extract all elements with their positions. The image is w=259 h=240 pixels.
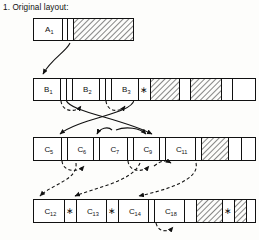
memory-block-free — [196, 138, 202, 161]
memory-block-free — [242, 138, 256, 161]
memory-block-hatched — [197, 200, 223, 223]
memory-block-free — [229, 138, 242, 161]
asterisk-marker: ∗ — [224, 206, 232, 216]
memory-rows-layer — [34, 19, 256, 223]
block-label-subscript: 18 — [171, 211, 177, 217]
block-label: B — [83, 85, 88, 94]
dashed-arrow-c5-to-d12 — [40, 163, 76, 196]
block-label-subscript: 7 — [116, 149, 119, 155]
block-label-subscript: 3 — [128, 89, 131, 95]
memory-block-free — [100, 79, 106, 101]
block-label-subscript: 2 — [89, 89, 92, 95]
memory-block-free — [106, 79, 112, 101]
memory-block-free — [222, 79, 233, 101]
memory-block-hatched — [202, 138, 229, 161]
memory-block-free — [62, 138, 68, 161]
memory-block-free — [68, 19, 74, 41]
block-label-subscript: 11 — [182, 149, 188, 155]
block-label: B — [122, 85, 127, 94]
memory-block-hatched — [74, 19, 134, 41]
dashed-arrow-c9-to-c11 — [154, 161, 171, 166]
block-label-subscript: 14 — [135, 211, 141, 217]
memory-block-free — [67, 79, 73, 101]
block-label-subscript: 5 — [50, 149, 53, 155]
dashed-arrow-b2-arc — [106, 101, 125, 110]
block-label: B — [44, 85, 49, 94]
dashed-arrow-c7-to-d13 — [75, 163, 140, 196]
memory-block-free — [63, 19, 68, 41]
solid-arrow-c-in-left — [97, 128, 112, 134]
memory-block-free — [149, 200, 155, 223]
memory-block-free — [94, 138, 100, 161]
memory-block-free — [247, 200, 256, 223]
cell-labels-layer: A1B1B2B3∗C5C6C7C9C11C12∗C13∗C14C18∗ — [44, 25, 232, 217]
block-label-subscript: 12 — [50, 211, 56, 217]
block-label-subscript: 1 — [51, 29, 54, 35]
block-label-subscript: 1 — [50, 89, 53, 95]
solid-arrow-a1-to-b1 — [43, 43, 70, 74]
memory-block-free — [160, 138, 166, 161]
solid-arrow-b-cross-left — [66, 100, 152, 134]
asterisk-marker: ∗ — [140, 85, 148, 95]
memory-block-free — [180, 79, 191, 101]
asterisk-marker: ∗ — [66, 206, 74, 216]
asterisk-marker: ∗ — [108, 206, 116, 216]
memory-block-free — [61, 79, 67, 101]
memory-block-hatched — [191, 79, 222, 101]
dashed-arrow-d18-hook — [156, 223, 173, 231]
memory-block-hatched — [235, 200, 247, 223]
diagram-canvas: 1. Original layout: A1B1B2B3∗C5C6C7C9C11… — [0, 0, 259, 240]
dashed-arrow-c5-arc — [62, 161, 84, 170]
block-label-subscript: 13 — [93, 211, 99, 217]
block-label-subscript: 9 — [149, 149, 152, 155]
memory-block-hatched — [151, 79, 180, 101]
block-label-subscript: 6 — [83, 149, 86, 155]
layout-diagram-svg: A1B1B2B3∗C5C6C7C9C11C12∗C13∗C14C18∗ — [0, 0, 259, 240]
memory-block-free — [185, 200, 197, 223]
memory-block-free — [128, 138, 134, 161]
memory-block-free — [233, 79, 256, 101]
